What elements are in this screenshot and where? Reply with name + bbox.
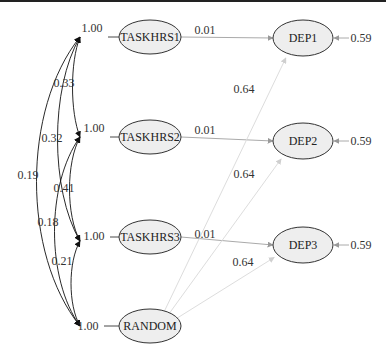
node-dep2[interactable]: DEP2 [273, 123, 333, 159]
node-random[interactable]: RANDOM [119, 309, 181, 343]
path-diagram: TASKHRS1TASKHRS2TASKHRS3RANDOMDEP1DEP2DE… [0, 0, 386, 360]
path-coefficient-label: 0.01 [195, 227, 216, 241]
node-label: DEP1 [289, 31, 318, 45]
path-arrow [177, 257, 275, 318]
variance-label: 1.00 [82, 21, 103, 35]
covariance-label: 0.33 [54, 76, 75, 90]
node-label: RANDOM [123, 319, 177, 333]
node-label: DEP3 [289, 238, 318, 252]
variance-label: 1.00 [84, 229, 105, 243]
node-taskhrs1[interactable]: TASKHRS1 [119, 20, 181, 54]
node-dep3[interactable]: DEP3 [273, 227, 333, 263]
variance-label: 1.00 [78, 319, 99, 333]
path-arrow [181, 37, 273, 38]
path-coefficient-label: 0.64 [234, 167, 255, 181]
node-taskhrs2[interactable]: TASKHRS2 [119, 120, 181, 154]
residual-label: 0.59 [351, 134, 372, 148]
path-arrow [169, 159, 281, 314]
covariance-label: 0.18 [38, 215, 59, 229]
covariance-label: 0.21 [52, 254, 73, 268]
path-coefficient-label: 0.01 [195, 23, 216, 37]
path-coefficient-label: 0.64 [233, 255, 254, 269]
node-label: TASKHRS1 [120, 30, 180, 44]
residual-label: 0.59 [351, 31, 372, 45]
path-arrow [164, 58, 286, 312]
covariance-label: 0.19 [18, 168, 39, 182]
covariance-label: 0.32 [42, 131, 63, 145]
node-layer: TASKHRS1TASKHRS2TASKHRS3RANDOMDEP1DEP2DE… [119, 20, 333, 343]
path-coefficient-label: 0.64 [234, 82, 255, 96]
node-label: DEP2 [289, 134, 318, 148]
node-label: TASKHRS3 [120, 230, 180, 244]
path-layer [104, 37, 349, 326]
path-arrow [181, 137, 273, 141]
node-label: TASKHRS2 [120, 130, 180, 144]
covariance-label: 0.41 [54, 181, 75, 195]
path-coefficient-label: 0.01 [195, 123, 216, 137]
residual-label: 0.59 [351, 238, 372, 252]
variance-label: 1.00 [84, 121, 105, 135]
node-taskhrs3[interactable]: TASKHRS3 [119, 220, 181, 254]
node-dep1[interactable]: DEP1 [273, 20, 333, 56]
